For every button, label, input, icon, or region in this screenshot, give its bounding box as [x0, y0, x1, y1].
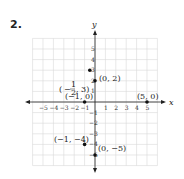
- data-point: [93, 153, 97, 157]
- y-tick-label: −1: [89, 109, 98, 116]
- x-tick-label: −2: [70, 104, 79, 111]
- y-tick-label: 5: [91, 45, 95, 52]
- x-tick-label: 5: [146, 104, 150, 111]
- y-axis-arrow-down: [93, 168, 97, 173]
- y-axis-label: y: [91, 20, 97, 29]
- svg-text:(: (: [59, 85, 62, 94]
- x-tick-label: 3: [125, 104, 129, 111]
- y-tick-label: −3: [89, 130, 98, 137]
- y-axis-arrow-up: [93, 30, 97, 35]
- x-tick-label: −3: [60, 104, 69, 111]
- point-label-0-neg5: (0, −5): [98, 144, 126, 153]
- x-axis-label: x: [169, 98, 174, 107]
- x-tick-label: 1: [104, 104, 108, 111]
- point-label-neg1-neg4: (−1, −4): [54, 135, 89, 144]
- x-axis-arrow-left: [25, 100, 30, 104]
- x-tick-label: −4: [49, 104, 58, 111]
- data-point: [93, 79, 97, 83]
- x-axis-arrow-right: [161, 100, 166, 104]
- y-tick-label: 4: [91, 56, 95, 63]
- x-tick-label: −5: [39, 104, 48, 111]
- y-tick-label: 3: [91, 66, 95, 73]
- x-tick-label: 2: [114, 104, 118, 111]
- point-label-5-0: (5, 0): [137, 92, 159, 101]
- coordinate-plane: x y −5−4−3−2−112345−5−4−3−2−112345 ( − 1…: [0, 0, 184, 179]
- y-tick-label: −4: [89, 140, 98, 147]
- y-tick-label: −2: [89, 119, 98, 126]
- point-label-0-2: (0, 2): [99, 74, 121, 83]
- point-label-neg1-0: (−1, 0): [65, 92, 93, 101]
- data-point: [88, 68, 92, 72]
- x-tick-label: 4: [135, 104, 139, 111]
